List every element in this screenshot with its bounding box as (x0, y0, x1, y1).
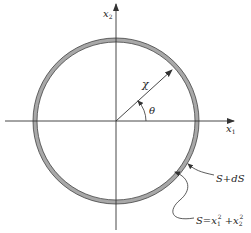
x2-axis-label: x2 (103, 8, 113, 20)
diagram-canvas: x2 x1 χ θ S+dS S=x12 +x22 (0, 0, 251, 233)
angle-label: θ (149, 105, 155, 116)
outer-leader-line (188, 164, 214, 175)
angle-arc (138, 101, 146, 121)
x1-axis-label: x1 (226, 123, 235, 135)
outer-surface-label: S+dS (216, 173, 245, 184)
inner-surface-label: S=x12 +x22 (196, 213, 244, 227)
radius-label: χ (141, 78, 150, 91)
inner-leader-line (173, 172, 194, 219)
